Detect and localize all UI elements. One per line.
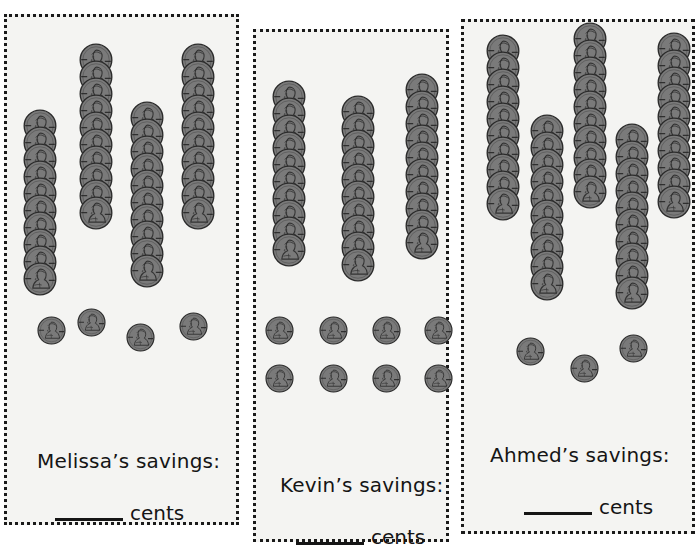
answer-row-ahmed: cents (524, 495, 692, 519)
dime-coin-icon (79, 196, 113, 230)
dime-stack (657, 32, 691, 219)
savings-name-melissa: Melissa’s savings: (37, 449, 236, 473)
penny-coin-icon (372, 364, 401, 393)
label-block-kevin: Kevin’s savings: cents (256, 473, 446, 549)
dime-stack (181, 43, 215, 230)
answer-blank-melissa[interactable] (55, 516, 123, 521)
savings-panel-kevin: Kevin’s savings: cents (253, 29, 449, 542)
dime-stack (530, 114, 564, 301)
dime-coin-icon (341, 248, 375, 282)
penny-coin-icon (424, 364, 453, 393)
label-block-melissa: Melissa’s savings: cents (7, 449, 236, 525)
answer-row-melissa: cents (55, 501, 236, 525)
dime-coin-icon (615, 276, 649, 310)
penny-coin-icon (126, 323, 155, 352)
penny-coin-icon (619, 334, 648, 363)
dime-stack (341, 95, 375, 282)
penny-coin-icon (37, 316, 66, 345)
savings-panel-ahmed: Ahmed’s savings: cents (461, 19, 695, 534)
answer-blank-ahmed[interactable] (524, 510, 592, 515)
penny-coin-icon (570, 354, 599, 383)
answer-row-kevin: cents (296, 525, 446, 549)
penny-coin-icon (319, 364, 348, 393)
savings-name-kevin: Kevin’s savings: (280, 473, 446, 497)
dime-coin-icon (130, 254, 164, 288)
dime-coin-icon (23, 262, 57, 296)
penny-coin-icon (372, 316, 401, 345)
penny-coin-icon (319, 316, 348, 345)
dime-stack (405, 73, 439, 260)
penny-coin-icon (265, 316, 294, 345)
coin-area-melissa (7, 17, 236, 522)
coin-counting-worksheet: Melissa’s savings: cents Kevin’s savings… (0, 0, 699, 551)
savings-name-ahmed: Ahmed’s savings: (490, 443, 692, 467)
dime-stack (23, 109, 57, 296)
answer-blank-kevin[interactable] (296, 540, 364, 545)
dime-coin-icon (530, 267, 564, 301)
cents-label-kevin: cents (371, 525, 425, 549)
dime-coin-icon (486, 187, 520, 221)
dime-coin-icon (657, 185, 691, 219)
dime-coin-icon (573, 175, 607, 209)
coin-area-kevin (256, 32, 446, 539)
dime-stack (272, 80, 306, 267)
dime-stack (79, 43, 113, 230)
dime-stack (486, 34, 520, 221)
dime-coin-icon (181, 196, 215, 230)
penny-coin-icon (516, 337, 545, 366)
dime-stack (573, 22, 607, 209)
penny-coin-icon (424, 316, 453, 345)
cents-label-melissa: cents (130, 501, 184, 525)
dime-stack (615, 123, 649, 310)
dime-stack (130, 101, 164, 288)
label-block-ahmed: Ahmed’s savings: cents (464, 443, 692, 519)
cents-label-ahmed: cents (599, 495, 653, 519)
savings-panel-melissa: Melissa’s savings: cents (4, 14, 239, 525)
dime-coin-icon (272, 233, 306, 267)
dime-coin-icon (405, 226, 439, 260)
penny-coin-icon (265, 364, 294, 393)
penny-coin-icon (179, 312, 208, 341)
penny-coin-icon (77, 308, 106, 337)
